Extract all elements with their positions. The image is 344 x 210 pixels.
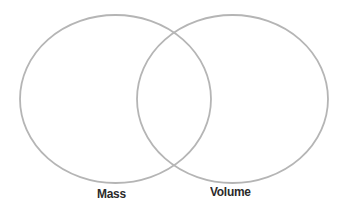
mass-label: Mass [97,186,126,201]
venn-circles [0,0,344,210]
mass-circle [20,15,211,183]
venn-diagram: Mass Volume [0,0,344,210]
volume-circle [137,15,328,183]
volume-label: Volume [210,184,251,199]
